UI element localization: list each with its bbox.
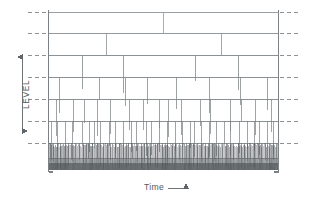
- cascade-level-group: [48, 12, 278, 170]
- dense-band-core: [48, 163, 278, 170]
- x-axis-label: Time: [144, 182, 164, 192]
- figure-root: LEVEL Time: [0, 0, 316, 201]
- level-tick-marks-left: [28, 13, 46, 144]
- dense-leaf-band: [48, 143, 278, 170]
- level-tick-marks-right: [280, 13, 300, 144]
- cascade-diagram-canvas: [0, 0, 316, 201]
- y-axis-label: LEVEL: [21, 80, 31, 109]
